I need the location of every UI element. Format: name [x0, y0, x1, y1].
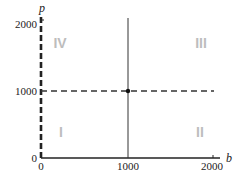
x-tick-0: 0 [38, 160, 44, 172]
quadrant-label-iii: III [195, 35, 207, 51]
quadrant-label-ii: II [196, 124, 204, 140]
y-axis-label: p [38, 1, 45, 15]
intersection-point [126, 89, 130, 93]
quadrant-label-iv: IV [53, 35, 67, 51]
quadrant-diagram: 0 1000 2000 0 1000 2000 p b IV III I II [0, 0, 248, 181]
y-tick-2000: 2000 [15, 18, 38, 30]
x-axis-label: b [226, 151, 232, 165]
y-tick-1000: 1000 [15, 85, 38, 97]
y-tick-0: 0 [32, 152, 38, 164]
quadrant-label-i: I [59, 124, 63, 140]
x-tick-1000: 1000 [117, 160, 140, 172]
x-tick-2000: 2000 [201, 160, 224, 172]
